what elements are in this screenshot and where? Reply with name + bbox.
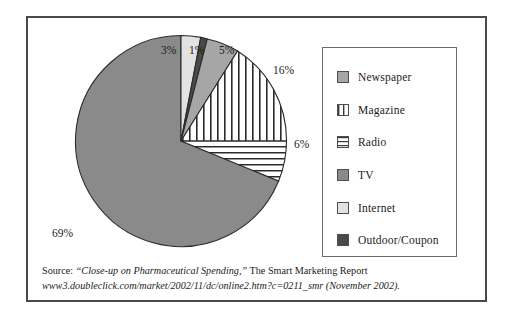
legend-item-newspaper[interactable]: Newspaper	[337, 61, 455, 94]
pie-label-tv: 69%	[52, 227, 73, 239]
source-url-line2: market/2002/11/dc/online2.htm?c=0211_smr…	[139, 280, 400, 291]
figure-frame: 69% 3% 1% 5% 16% 6% Newspaper Magazine	[26, 16, 487, 302]
source-note: Source: “Close-up on Pharmaceutical Spen…	[42, 264, 474, 293]
legend-label-internet: Internet	[358, 202, 395, 214]
source-url-line1: www3.doubleclick.com/	[42, 280, 139, 291]
pie-label-radio: 6%	[294, 138, 309, 150]
pie-label-outdoor-coupon: 1%	[189, 44, 204, 56]
pie-label-magazine: 16%	[273, 64, 294, 76]
legend-item-tv[interactable]: TV	[337, 159, 455, 192]
legend-label-magazine: Magazine	[358, 104, 405, 116]
swatch-radio-icon	[337, 136, 349, 148]
legend-item-internet[interactable]: Internet	[337, 191, 455, 224]
legend-label-radio: Radio	[358, 136, 386, 148]
swatch-magazine-icon	[337, 104, 349, 116]
swatch-tv-icon	[337, 169, 349, 181]
swatch-outdoor-coupon-icon	[337, 234, 349, 246]
source-lead: Source:	[42, 265, 76, 276]
legend-label-newspaper: Newspaper	[358, 71, 412, 83]
source-title: “Close-up on Pharmaceutical Spending,”	[76, 265, 247, 276]
swatch-internet-icon	[337, 202, 349, 214]
legend-item-radio[interactable]: Radio	[337, 126, 455, 159]
swatch-newspaper-icon	[337, 71, 349, 83]
legend-label-tv: TV	[358, 169, 374, 181]
pie-label-newspaper: 5%	[219, 44, 234, 56]
pie-chart-area: 69% 3% 1% 5% 16% 6% Newspaper Magazine	[28, 18, 489, 258]
legend-item-list: Newspaper Magazine	[337, 61, 455, 257]
source-publication: The Smart Marketing Report	[247, 265, 367, 276]
chart-legend: Newspaper Magazine	[322, 47, 457, 257]
legend-label-outdoor-coupon: Outdoor/Coupon	[358, 234, 439, 246]
legend-item-outdoor-coupon[interactable]: Outdoor/Coupon	[337, 224, 455, 257]
legend-item-magazine[interactable]: Magazine	[337, 94, 455, 127]
pie-label-internet: 3%	[161, 44, 176, 56]
